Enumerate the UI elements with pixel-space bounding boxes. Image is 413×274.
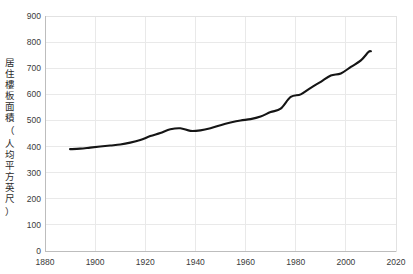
x-tick-labels: 1880 1900 1920 1940 1960 1980 2000 2020 (36, 257, 406, 267)
x-tick-label: 1900 (86, 257, 105, 267)
y-axis-title-char: 尺 (5, 193, 15, 204)
y-axis-title-char: 板 (5, 90, 15, 101)
x-tick-label: 1960 (236, 257, 255, 267)
x-tick-label: 1920 (136, 257, 155, 267)
x-tick-label: 1980 (286, 257, 305, 267)
y-tick-label: 0 (36, 246, 41, 256)
y-axis-title-char: 英 (5, 182, 15, 193)
y-tick-label: 800 (27, 37, 41, 47)
y-tick-label: 300 (27, 168, 41, 178)
y-axis-title-char: 積 (5, 112, 15, 123)
y-axis-title-char: ） (5, 206, 15, 217)
y-axis-title-char: 住 (5, 68, 15, 79)
y-axis-title-char: 樓 (5, 79, 15, 90)
y-tick-label: 600 (27, 89, 41, 99)
y-axis-title-char: （ (5, 125, 15, 136)
y-axis-title-char: 方 (5, 171, 15, 182)
x-tick-label: 2000 (336, 257, 355, 267)
y-axis-title-char: 人 (5, 138, 15, 149)
x-tick-label: 1940 (186, 257, 205, 267)
y-tick-label: 700 (27, 63, 41, 73)
y-tick-label: 100 (27, 220, 41, 230)
line-chart: 900 800 700 600 500 400 300 200 100 0 18… (0, 0, 413, 274)
y-tick-label: 200 (27, 194, 41, 204)
x-tick-label: 1880 (36, 257, 55, 267)
y-axis-title-char: 均 (5, 149, 15, 160)
y-axis-title-char: 居 (5, 57, 15, 68)
y-tick-labels: 900 800 700 600 500 400 300 200 100 0 (27, 11, 41, 256)
y-tick-label: 500 (27, 115, 41, 125)
y-axis-title-char: 平 (5, 160, 15, 171)
y-axis-title: 居 住 樓 板 面 積 （ 人 均 平 方 英 尺 ） (5, 57, 15, 217)
y-tick-label: 400 (27, 142, 41, 152)
x-tick-label: 2020 (387, 257, 406, 267)
y-tick-label: 900 (27, 11, 41, 21)
chart-screenshot: 900 800 700 600 500 400 300 200 100 0 18… (0, 0, 413, 274)
plot-background (45, 16, 396, 251)
y-axis-title-char: 面 (5, 101, 15, 112)
